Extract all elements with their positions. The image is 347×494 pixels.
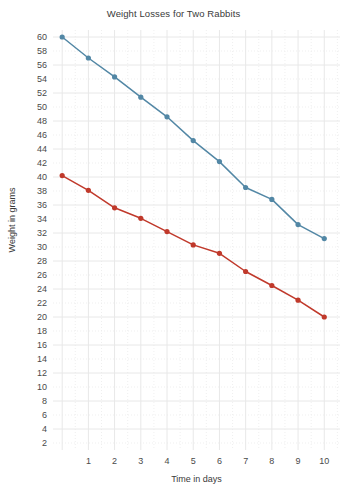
x-tick-5: 5 (191, 456, 196, 466)
y-tick-16: 16 (37, 340, 47, 350)
data-point-rabbit-1-1 (86, 55, 91, 60)
y-tick-60: 60 (37, 32, 47, 42)
y-tick-20: 20 (37, 312, 47, 322)
y-tick-40: 40 (37, 172, 47, 182)
data-point-rabbit-1-4 (164, 114, 169, 119)
data-point-rabbit-2-8 (269, 283, 274, 288)
y-tick-30: 30 (37, 242, 47, 252)
y-tick-10: 10 (37, 382, 47, 392)
chart-container: Weight Losses for Two Rabbits Weight in … (0, 0, 347, 494)
data-point-rabbit-2-0 (60, 173, 65, 178)
y-tick-36: 36 (37, 200, 47, 210)
x-tick-labels: 12345678910 (86, 456, 329, 466)
x-tick-1: 1 (86, 456, 91, 466)
y-tick-26: 26 (37, 270, 47, 280)
y-tick-6: 6 (42, 410, 47, 420)
y-tick-12: 12 (37, 368, 47, 378)
y-tick-2: 2 (42, 438, 47, 448)
y-tick-38: 38 (37, 186, 47, 196)
data-point-rabbit-1-0 (60, 34, 65, 39)
data-point-rabbit-1-10 (322, 236, 327, 241)
x-tick-10: 10 (319, 456, 329, 466)
data-point-rabbit-2-2 (112, 205, 117, 210)
y-tick-48: 48 (37, 116, 47, 126)
data-point-rabbit-1-5 (191, 138, 196, 143)
y-tick-50: 50 (37, 102, 47, 112)
data-point-rabbit-1-9 (295, 222, 300, 227)
y-tick-8: 8 (42, 396, 47, 406)
y-tick-18: 18 (37, 326, 47, 336)
data-point-rabbit-2-1 (86, 188, 91, 193)
data-point-rabbit-2-6 (217, 251, 222, 256)
x-tick-4: 4 (165, 456, 170, 466)
y-tick-34: 34 (37, 214, 47, 224)
y-tick-4: 4 (42, 424, 47, 434)
data-point-rabbit-2-10 (322, 314, 327, 319)
y-tick-54: 54 (37, 74, 47, 84)
y-tick-28: 28 (37, 256, 47, 266)
data-point-rabbit-2-9 (295, 298, 300, 303)
data-point-rabbit-2-5 (191, 242, 196, 247)
x-tick-7: 7 (243, 456, 248, 466)
x-tick-3: 3 (138, 456, 143, 466)
data-point-rabbit-1-6 (217, 159, 222, 164)
y-tick-22: 22 (37, 298, 47, 308)
data-point-rabbit-1-7 (243, 185, 248, 190)
y-tick-58: 58 (37, 46, 47, 56)
data-point-rabbit-2-7 (243, 269, 248, 274)
y-tick-42: 42 (37, 158, 47, 168)
y-tick-56: 56 (37, 60, 47, 70)
y-tick-24: 24 (37, 284, 47, 294)
data-point-rabbit-1-3 (138, 95, 143, 100)
y-tick-32: 32 (37, 228, 47, 238)
y-tick-46: 46 (37, 130, 47, 140)
x-tick-8: 8 (269, 456, 274, 466)
plot-area: 2468101214161820222426283032343638404244… (0, 0, 347, 494)
y-tick-labels: 2468101214161820222426283032343638404244… (37, 32, 47, 448)
x-tick-9: 9 (296, 456, 301, 466)
data-point-rabbit-2-3 (138, 216, 143, 221)
x-tick-2: 2 (112, 456, 117, 466)
y-tick-44: 44 (37, 144, 47, 154)
data-point-rabbit-2-4 (164, 229, 169, 234)
data-point-rabbit-1-2 (112, 74, 117, 79)
data-point-rabbit-1-8 (269, 197, 274, 202)
y-tick-14: 14 (37, 354, 47, 364)
y-tick-52: 52 (37, 88, 47, 98)
x-tick-6: 6 (217, 456, 222, 466)
